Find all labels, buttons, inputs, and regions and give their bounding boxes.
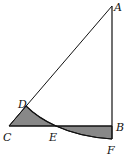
shaded-region-ebf: [56, 126, 112, 139]
geometry-figure: A B C D E F: [0, 0, 129, 164]
label-f: F: [106, 144, 115, 157]
label-d: D: [17, 98, 27, 111]
label-b: B: [115, 121, 124, 134]
label-c: C: [3, 131, 12, 144]
label-e: E: [48, 131, 57, 144]
label-a: A: [113, 1, 122, 14]
